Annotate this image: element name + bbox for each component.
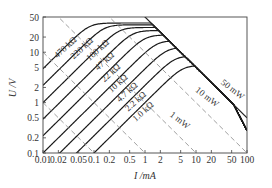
power-line-label: 1 mW [168, 109, 192, 131]
y-tick-label: 1 [34, 98, 39, 108]
y-tick-label: 0.2 [27, 133, 39, 143]
x-tick-label: 0.02 [50, 155, 67, 165]
x-tick-label: 50 [227, 155, 237, 165]
y-axis-label: U /V [7, 77, 18, 98]
y-tick-label: 10 [30, 48, 40, 58]
y-tick-label: 2 [34, 83, 39, 93]
x-tick-label: 0.2 [103, 155, 115, 165]
power-line-label: 50 mW [219, 77, 247, 102]
x-tick-label: 1 [143, 155, 148, 165]
x-tick-label: 0.1 [88, 155, 100, 165]
x-tick-label: 0.5 [124, 155, 136, 165]
chart-svg: 0.010.020.050.10.20.5125102050100 0.10.2… [0, 0, 272, 188]
x-tick-label: 0.05 [70, 155, 87, 165]
x-axis-label: I /mA [133, 170, 157, 181]
y-tick-label: 50 [30, 13, 40, 23]
chart-container: 0.010.020.050.10.20.5125102050100 0.10.2… [0, 0, 272, 188]
x-axis-ticks: 0.010.020.050.10.20.5125102050100 [35, 150, 255, 165]
y-tick-label: 20 [30, 33, 40, 43]
x-tick-label: 100 [240, 155, 255, 165]
y-tick-label: 0.1 [27, 149, 39, 159]
x-tick-label: 5 [178, 155, 183, 165]
y-tick-label: 0.5 [27, 113, 39, 123]
x-tick-label: 2 [158, 155, 163, 165]
y-tick-label: 5 [34, 63, 39, 73]
x-tick-label: 20 [207, 155, 217, 165]
x-tick-label: 10 [191, 155, 201, 165]
